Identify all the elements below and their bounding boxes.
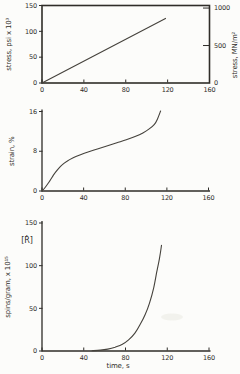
y-tick-label: 8 — [33, 147, 37, 155]
x-tick-label: 40 — [80, 194, 88, 202]
y-tick-label: 150 — [25, 219, 37, 227]
curve-spins-per-gram — [92, 245, 161, 351]
x-tick-label: 160 — [203, 354, 215, 362]
x-tick-label: 0 — [40, 194, 44, 202]
curve-strain — [42, 111, 161, 191]
plot-frame — [42, 6, 210, 84]
y-axis-title: spins/gram, x 10¹⁵ — [4, 256, 12, 318]
x-tick-label: 120 — [161, 354, 173, 362]
y-tick-label: 0 — [33, 347, 37, 355]
x-tick-label: 40 — [80, 354, 88, 362]
x-tick-label: 0 — [40, 354, 44, 362]
y2-axis-title: stress, MN/m² — [231, 31, 239, 78]
y-tick-label: 0 — [33, 79, 37, 87]
y-tick-label: 100 — [25, 262, 37, 270]
y-tick-label: 50 — [29, 305, 37, 313]
x-tick-label: 160 — [203, 194, 215, 202]
y-tick-label: 50 — [29, 53, 37, 61]
scan-smudge — [161, 314, 183, 321]
y2-tick-label: 500 — [214, 42, 226, 50]
figure-page: 0408012016005010015005001000stress, MN/m… — [0, 0, 240, 374]
annotation-R-radical: [Ṙ] — [21, 235, 32, 245]
plot-axes — [42, 221, 211, 351]
x-tick-label: 0 — [40, 86, 44, 94]
x-tick-label: 120 — [162, 86, 174, 94]
chart-stress-vs-time: 0408012016005010015005001000stress, MN/m… — [5, 2, 239, 94]
y-tick-label: 0 — [33, 187, 37, 195]
y2-tick-label: 1000 — [214, 4, 230, 12]
plot-axes — [42, 110, 210, 192]
figure: 0408012016005010015005001000stress, MN/m… — [0, 0, 240, 374]
x-tick-label: 120 — [161, 194, 173, 202]
chart-spins-vs-time: 04080120160050100150spins/gram, x 10¹⁵ti… — [4, 219, 215, 370]
x-axis-title: time, s — [107, 362, 130, 370]
y-axis-title: stress, psi x 10³ — [5, 17, 13, 70]
y2-tick-label: 0 — [214, 79, 218, 87]
x-tick-label: 80 — [122, 86, 130, 94]
x-tick-label: 80 — [121, 194, 129, 202]
y-tick-label: 16 — [29, 108, 37, 116]
y-tick-label: 100 — [25, 28, 37, 36]
x-tick-label: 40 — [80, 86, 88, 94]
x-tick-label: 80 — [122, 354, 130, 362]
y-axis-title: strain, % — [8, 136, 16, 166]
y-tick-label: 150 — [25, 2, 37, 10]
curve-stress — [42, 18, 166, 83]
chart-strain-vs-time: 040801201600816strain, % — [8, 108, 214, 202]
